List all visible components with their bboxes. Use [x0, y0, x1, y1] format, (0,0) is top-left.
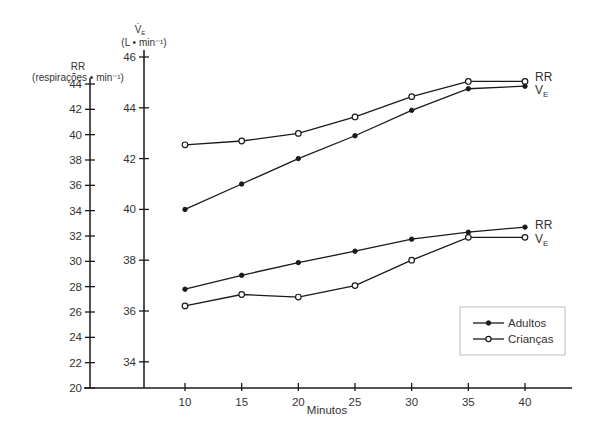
- data-point-criancas-ve: [182, 303, 188, 309]
- rr-tick-label: 20: [69, 382, 82, 394]
- data-point-adultos-rr: [239, 273, 243, 277]
- series-adultos-ve: VE: [183, 83, 549, 211]
- rr-tick-label: 32: [69, 230, 82, 242]
- ve-axis-title: V̇E (L • min⁻¹): [121, 23, 166, 48]
- series-line-adultos-rr: [185, 227, 525, 289]
- series-end-label-main: V: [535, 83, 543, 97]
- data-point-adultos-rr: [409, 237, 413, 241]
- x-tick-label: 40: [519, 396, 532, 408]
- x-tick-label: 10: [179, 396, 192, 408]
- series-end-label-main: RR: [535, 218, 553, 232]
- rr-axis-title-line1: RR: [71, 61, 85, 72]
- series-end-label-sub: E: [543, 239, 548, 248]
- x-tick-label: 25: [349, 396, 362, 408]
- legend-label-adultos: Adultos: [508, 317, 547, 329]
- ve-axis-title-main: V̇E: [135, 23, 146, 36]
- ve-tick-label: 44: [123, 102, 136, 114]
- rr-tick-label: 22: [69, 357, 82, 369]
- ve-tick-label: 40: [123, 203, 136, 215]
- legend-marker-open: [486, 336, 491, 341]
- rr-tick-label: 42: [69, 103, 82, 115]
- rr-tick-label: 26: [69, 306, 82, 318]
- rr-axis-ticks: 20222426283032343638404244: [69, 78, 95, 394]
- data-point-adultos-ve: [239, 182, 243, 186]
- rr-tick-label: 44: [69, 78, 82, 90]
- data-point-criancas-ve: [239, 292, 245, 298]
- data-point-adultos-ve: [353, 134, 357, 138]
- data-point-adultos-ve: [183, 207, 187, 211]
- data-point-criancas-rr: [182, 142, 188, 148]
- series-criancas-ve: VE: [182, 232, 548, 308]
- series-end-label-adultos-rr: RR: [535, 218, 553, 232]
- ve-tick-label: 36: [123, 305, 136, 317]
- data-point-adultos-ve: [409, 108, 413, 112]
- data-point-criancas-ve: [296, 294, 302, 300]
- ve-axis-ticks: 34363840424446: [123, 51, 149, 368]
- ve-axis-title-sub: E: [141, 30, 145, 36]
- ve-tick-label: 34: [123, 356, 136, 368]
- data-point-criancas-rr: [522, 79, 528, 85]
- data-point-criancas-rr: [466, 79, 472, 85]
- series-end-label-main: V: [535, 232, 543, 246]
- line-chart: RR (respirações • min⁻¹) V̇E (L • min⁻¹)…: [0, 0, 591, 437]
- x-tick-label: 30: [405, 396, 418, 408]
- data-point-criancas-ve: [466, 235, 472, 241]
- data-point-criancas-ve: [409, 257, 415, 263]
- series-line-adultos-ve: [185, 86, 525, 209]
- data-point-adultos-ve: [296, 156, 300, 160]
- x-tick-label: 20: [292, 396, 305, 408]
- legend-label-criancas: Crianças: [508, 333, 554, 345]
- rr-tick-label: 36: [69, 179, 82, 191]
- x-tick-label: 35: [462, 396, 475, 408]
- legend: Adultos Crianças: [460, 307, 565, 355]
- data-point-criancas-ve: [522, 235, 528, 241]
- rr-tick-label: 34: [69, 205, 82, 217]
- series-criancas-rr: RR: [182, 70, 552, 147]
- ve-tick-label: 42: [123, 153, 136, 165]
- data-point-criancas-rr: [352, 114, 358, 120]
- data-point-adultos-rr: [183, 287, 187, 291]
- rr-tick-label: 38: [69, 154, 82, 166]
- data-point-adultos-ve: [523, 84, 527, 88]
- series-layer: RRVERRVE: [182, 70, 552, 308]
- series-end-label-adultos-ve: VE: [535, 83, 548, 99]
- data-point-criancas-rr: [239, 138, 245, 144]
- data-point-criancas-rr: [296, 131, 302, 137]
- ve-axis-title-line2: (L • min⁻¹): [121, 37, 166, 48]
- ve-tick-label: 46: [123, 51, 136, 63]
- data-point-adultos-rr: [466, 230, 470, 234]
- data-point-adultos-rr: [296, 260, 300, 264]
- data-point-adultos-rr: [523, 225, 527, 229]
- data-point-adultos-rr: [353, 249, 357, 253]
- series-end-label-sub: E: [543, 90, 548, 99]
- x-tick-label: 15: [235, 396, 248, 408]
- legend-marker-filled: [486, 321, 490, 325]
- rr-tick-label: 40: [69, 129, 82, 141]
- rr-tick-label: 28: [69, 281, 82, 293]
- ve-tick-label: 38: [123, 254, 136, 266]
- data-point-criancas-ve: [352, 283, 358, 289]
- data-point-adultos-ve: [466, 87, 470, 91]
- series-line-criancas-ve: [185, 237, 525, 306]
- x-axis-title: Minutos: [307, 404, 348, 416]
- series-end-label-criancas-ve: VE: [535, 232, 548, 248]
- legend-box: [460, 307, 565, 355]
- rr-tick-label: 24: [69, 331, 82, 343]
- rr-tick-label: 30: [69, 255, 82, 267]
- data-point-criancas-rr: [409, 94, 415, 100]
- x-axis-ticks: 10152025303540: [179, 383, 532, 408]
